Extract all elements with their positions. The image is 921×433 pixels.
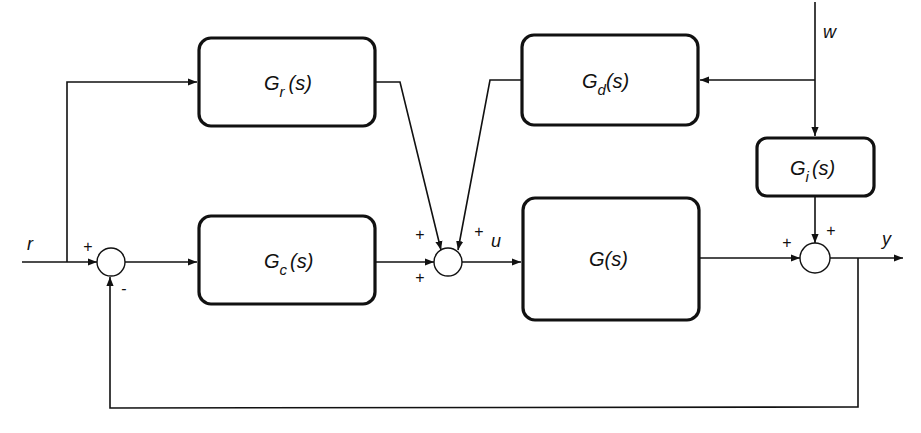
block-Gr: Gr(s) (199, 38, 375, 126)
signal-r-label: r (27, 234, 34, 254)
sum-junction-2: + + + (415, 223, 483, 286)
signal-u-label: u (491, 231, 501, 251)
block-Gd: Gd(s) (522, 35, 698, 125)
sign-plus: + (782, 234, 791, 251)
block-G-label: G(s) (589, 248, 628, 270)
sign-minus: - (121, 280, 126, 297)
sign-plus: + (826, 222, 835, 239)
signal-y-label: y (880, 229, 892, 249)
signal-w-label: w (823, 22, 837, 42)
sign-plus: + (474, 223, 483, 240)
feedforward-r-wire (67, 82, 197, 262)
sum-junction-1: + - (83, 238, 126, 297)
sum-junction-3: + + (782, 222, 835, 273)
sign-plus: + (415, 269, 424, 286)
signal-w: w (815, 2, 837, 136)
signal-y: y (830, 229, 903, 258)
sign-plus: + (415, 226, 424, 243)
block-Gi: Gi(s) (757, 138, 874, 196)
block-diagram: r + - Gr(s) Gc(s) + + + u Gd(s) G (0, 0, 921, 433)
sign-plus: + (83, 238, 92, 255)
block-Gc: Gc(s) (199, 216, 375, 304)
block-G: G(s) (523, 198, 699, 320)
